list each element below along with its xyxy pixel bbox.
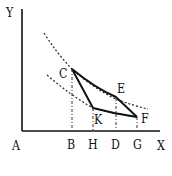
point-label-k: K — [94, 113, 102, 126]
x-axis-label: X — [157, 139, 165, 152]
origin-label: A — [12, 139, 20, 152]
path-c-e-f — [72, 69, 137, 117]
diagram-canvas — [0, 0, 172, 176]
point-label-c: C — [59, 67, 67, 80]
point-label-e: E — [117, 82, 125, 95]
y-axis-label: Y — [6, 6, 13, 19]
point-label-f: F — [141, 112, 149, 125]
diagram: Y X A C E F K B H D G — [0, 0, 172, 176]
x-tick-label-g: G — [133, 138, 142, 151]
x-tick-label-d: D — [111, 138, 120, 151]
x-tick-label-b: B — [67, 138, 75, 151]
x-tick-label-h: H — [88, 138, 98, 151]
